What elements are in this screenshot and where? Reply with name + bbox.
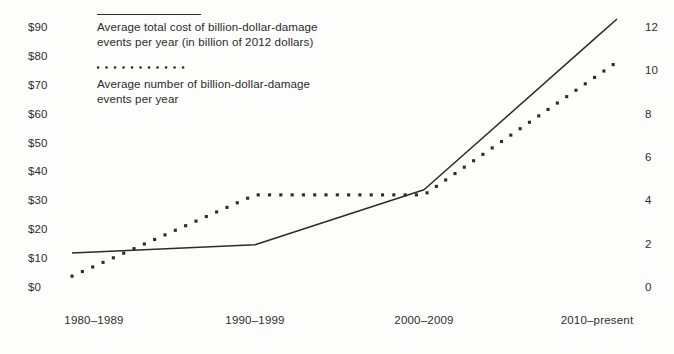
solid-line-swatch-icon [97,14,201,15]
event-count-dot [415,193,418,196]
y-left-tick-label: $80 [28,50,48,62]
event-count-dot [194,220,197,223]
x-axis-tick-label: 1990–1999 [225,314,284,326]
y-right-tick-label: 4 [645,194,652,206]
event-count-dot [472,159,475,162]
y-left-tick-label: $30 [28,194,48,206]
y-left-tick-label: $20 [28,223,48,235]
y-left-tick-label: $90 [28,21,48,33]
event-count-dot [528,121,531,124]
event-count-dot [143,243,146,246]
event-count-dot [91,265,94,268]
event-count-dot [500,140,503,143]
event-count-dot [612,63,615,66]
y-right-tick-label: 6 [645,151,652,163]
event-count-dot [509,134,512,137]
event-count-dot [153,238,156,241]
x-axis-tick-label: 2000–2009 [394,314,453,326]
event-count-dot [101,261,104,264]
event-count-dot [302,193,305,196]
event-count-dot [71,275,74,278]
event-count-dot [279,193,282,196]
event-count-dot [174,229,177,232]
event-count-dot [358,193,361,196]
event-count-dot [381,193,384,196]
event-count-dot [184,224,187,227]
event-count-dot [370,193,373,196]
legend-item-label: Average total cost of billion-dollar-dam… [97,20,329,49]
y-right-tick-label: 12 [645,21,658,33]
event-count-dot [257,193,260,196]
event-count-dot [225,206,228,209]
event-count-dot [392,193,395,196]
dotted-line-swatch-icon [97,66,192,69]
y-right-tick-label: 0 [645,281,652,293]
event-count-dot [593,76,596,79]
y-left-tick-label: $10 [28,252,48,264]
event-count-dot [132,247,135,250]
event-count-dot [481,153,484,156]
legend-item-total-cost: Average total cost of billion-dollar-dam… [97,14,347,49]
legend-item-label: Average number of billion-dollar-damage … [97,77,329,106]
event-count-dot [215,210,218,213]
event-count-dot [163,233,166,236]
event-count-dot [565,95,568,98]
x-axis-tick-label: 1980–1989 [64,314,123,326]
y-right-tick-label: 8 [645,108,652,120]
event-count-dot [236,201,239,204]
event-count-dot [324,193,327,196]
event-count-dot [602,69,605,72]
event-count-dot [435,185,438,188]
chart-figure: $0$10$20$30$40$50$60$70$80$90 024681012 … [0,0,674,354]
event-count-dot [404,193,407,196]
x-axis-tick-label: 2010–present [561,314,634,326]
event-count-dot [122,252,125,255]
event-count-dot [519,127,522,130]
event-count-dot [268,193,271,196]
event-count-dot [336,193,339,196]
legend-item-event-count: Average number of billion-dollar-damage … [97,59,347,106]
event-count-dot [463,166,466,169]
y-left-tick-label: $60 [28,108,48,120]
y-left-tick-label: $70 [28,79,48,91]
event-count-dot [556,102,559,105]
chart-legend: Average total cost of billion-dollar-dam… [97,14,347,116]
y-left-tick-label: $50 [28,137,48,149]
event-count-dot [347,193,350,196]
event-count-dot [246,197,249,200]
event-count-dot [584,82,587,85]
event-count-dot [81,270,84,273]
event-count-dot [453,172,456,175]
event-count-dot [291,193,294,196]
event-count-dot [537,114,540,117]
event-count-dot [205,215,208,218]
event-count-dot [547,108,550,111]
event-count-dot [426,191,429,194]
event-count-dot [444,178,447,181]
y-left-tick-label: $0 [28,281,41,293]
y-right-tick-label: 10 [645,64,658,76]
event-count-dot [491,146,494,149]
event-count-dot [574,89,577,92]
event-count-dot [313,193,316,196]
event-count-dot [112,256,115,259]
y-right-tick-label: 2 [645,238,652,250]
y-left-tick-label: $40 [28,165,48,177]
